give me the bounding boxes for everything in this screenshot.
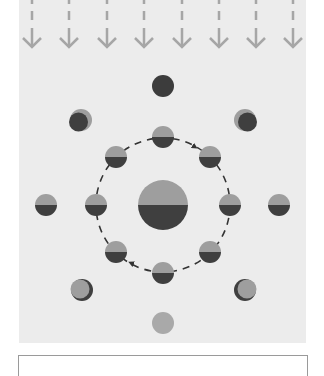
waning-gibbous-icon	[71, 279, 94, 301]
moon-orbit-position-icon	[152, 126, 174, 148]
moon-orbit-position-icon	[199, 146, 221, 168]
moon-orbit-position-icon	[199, 241, 221, 263]
sunlight-arrow-icon	[98, 0, 116, 47]
sunlight-arrow-icon	[60, 0, 78, 47]
caption-box	[18, 355, 308, 376]
moon-orbit-position-icon	[219, 194, 241, 216]
moon-orbit-position-icon	[85, 194, 107, 216]
phase-disc	[268, 194, 290, 216]
third-quarter-icon	[35, 194, 57, 216]
sunlight-arrow-icon	[247, 0, 265, 47]
first-quarter-icon	[268, 194, 290, 216]
waxing-crescent-icon	[234, 109, 257, 132]
new-moon-icon	[152, 75, 174, 97]
sunlight-arrow-icon	[135, 0, 153, 47]
moon-orbit-position-icon	[105, 146, 127, 168]
waxing-gibbous-icon	[234, 279, 257, 301]
moon-orbit-position-icon	[105, 241, 127, 263]
earth-icon	[138, 180, 188, 230]
moon-orbit-position-icon	[152, 262, 174, 284]
sunlight-arrow-icon	[284, 0, 302, 47]
full-moon-icon	[152, 312, 174, 334]
earth-disc	[138, 180, 188, 230]
sunlight-arrow-icon	[23, 0, 41, 47]
sunlight-arrows	[23, 0, 302, 47]
waning-crescent-icon	[69, 109, 92, 132]
sunlight-arrow-icon	[173, 0, 191, 47]
sunlight-arrow-icon	[210, 0, 228, 47]
phase-disc	[35, 194, 57, 216]
